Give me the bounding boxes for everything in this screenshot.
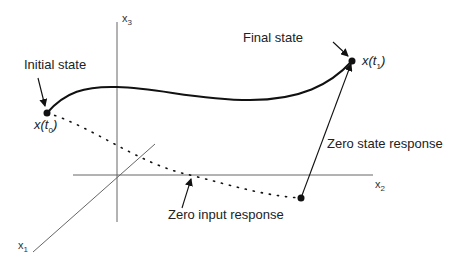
zero-input-trajectory (47, 113, 301, 198)
final-state-point (349, 58, 356, 65)
x1-axis (33, 144, 155, 252)
x2-axis-label: x2 (375, 178, 385, 193)
zero-state-arrow (301, 64, 351, 198)
state-trajectory (47, 61, 352, 113)
final-state-pointer (333, 42, 348, 56)
initial-state-pointer (38, 78, 45, 106)
zero-state-response-label: Zero state response (327, 136, 443, 151)
initial-state-math: x(t0) (34, 117, 57, 135)
initial-state-label: Initial state (24, 57, 86, 72)
final-state-label: Final state (243, 30, 303, 45)
initial-state-point (44, 110, 51, 117)
zero-input-end-point (298, 195, 305, 202)
x1-axis-label: x1 (18, 239, 28, 254)
x3-axis-label: x3 (122, 12, 132, 27)
zero-input-pointer (182, 179, 191, 208)
final-state-math: x(t1) (362, 53, 385, 71)
state-space-diagram (0, 0, 455, 265)
zero-input-response-label: Zero input response (168, 207, 284, 222)
